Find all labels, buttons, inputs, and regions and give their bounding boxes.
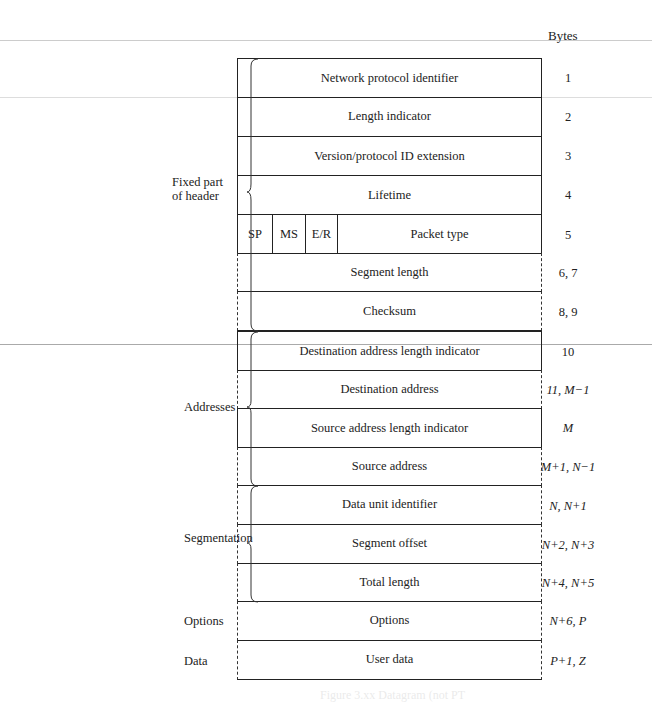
bytes-value: 3 [528, 149, 608, 164]
field-label: Options [370, 613, 410, 628]
field-label: Destination address length indicator [299, 344, 479, 359]
flag-ms: MS [273, 215, 306, 253]
field-user-data: User data [237, 640, 542, 680]
field-total-length: Total length [237, 563, 542, 602]
bytes-value: 6, 7 [528, 266, 608, 281]
brace-segmentation-icon [246, 485, 260, 603]
bytes-value: 4 [528, 188, 608, 203]
bytes-value: N+2, N+3 [528, 538, 608, 553]
bytes-value: 10 [528, 345, 608, 360]
field-label: Source address length indicator [311, 421, 468, 436]
bytes-value: N+6, P [528, 614, 608, 629]
field-label: Packet type [338, 215, 541, 253]
field-segment-length: Segment length [237, 253, 542, 292]
field-label: Segment offset [352, 536, 427, 551]
field-label: Total length [360, 575, 420, 590]
field-options: Options [237, 601, 542, 641]
field-data-unit-id: Data unit identifier [237, 485, 542, 525]
field-label: Destination address [340, 382, 438, 397]
bytes-value: 1 [528, 71, 608, 86]
group-fixed-header: Fixed part of header [172, 175, 223, 203]
bytes-value: 5 [528, 228, 608, 243]
group-addresses: Addresses [184, 400, 235, 414]
brace-fixed-header-icon [246, 58, 260, 333]
field-network-protocol-id: Network protocol identifier [237, 58, 542, 98]
figure-caption: Figure 3.xx Datagram (not PT [320, 688, 465, 703]
field-label: Network protocol identifier [321, 71, 458, 86]
field-label: User data [366, 652, 414, 667]
field-lifetime: Lifetime [237, 175, 542, 215]
field-label: Version/protocol ID extension [314, 149, 465, 164]
field-version-extension: Version/protocol ID extension [237, 136, 542, 176]
bytes-value: 2 [528, 110, 608, 125]
group-options: Options [184, 614, 224, 628]
field-dest-addr-length: Destination address length indicator [237, 331, 542, 371]
field-label: Length indicator [348, 109, 431, 124]
bytes-column-header: Bytes [548, 28, 578, 44]
group-data: Data [184, 654, 208, 668]
field-dest-addr: Destination address [237, 370, 542, 409]
field-label: Checksum [363, 304, 416, 319]
field-src-addr-length: Source address length indicator [237, 408, 542, 448]
field-segment-offset: Segment offset [237, 524, 542, 564]
field-src-addr: Source address [237, 447, 542, 486]
group-segmentation: Segmentation [184, 531, 253, 545]
field-label: Source address [352, 459, 427, 474]
bytes-value: 8, 9 [528, 305, 608, 320]
flag-er: E/R [306, 215, 338, 253]
field-packet-type: SP MS E/R Packet type [237, 214, 542, 254]
field-label: Lifetime [368, 188, 411, 203]
bytes-value: M+1, N−1 [528, 460, 608, 475]
group-label: of header [172, 189, 223, 203]
bytes-value: M [528, 421, 608, 436]
field-label: Data unit identifier [342, 497, 437, 512]
bytes-value: N, N+1 [528, 499, 608, 514]
bytes-value: N+4, N+5 [528, 576, 608, 591]
bytes-value: P+1, Z [528, 654, 608, 669]
group-label: Fixed part [172, 175, 223, 189]
field-length-indicator: Length indicator [237, 97, 542, 137]
bytes-value: 11, M−1 [528, 383, 608, 398]
field-checksum: Checksum [237, 291, 542, 331]
brace-addresses-icon [246, 331, 260, 487]
field-label: Segment length [350, 265, 428, 280]
